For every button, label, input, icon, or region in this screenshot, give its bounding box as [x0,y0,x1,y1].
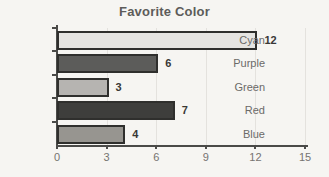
x-tick-label-0: 0 [54,151,60,163]
y-axis-tick [52,50,57,52]
category-label-purple: Purple [0,54,265,73]
x-axis-tick-0 [56,145,58,149]
category-label-cyan: Cyan [0,31,265,50]
category-label-green: Green [0,78,265,97]
x-tick-label-15: 15 [299,151,311,163]
category-label-blue: Blue [0,125,265,144]
value-label-cyan: 12 [264,31,276,50]
x-tick-label-3: 3 [104,151,110,163]
x-axis-tick-12 [254,145,256,149]
favorite-color-bar-chart: Favorite Color 126374 CyanPurpleGreenRed… [0,0,329,177]
category-label-red: Red [0,101,265,120]
y-axis-tick [52,27,57,29]
x-tick-label-12: 12 [249,151,261,163]
x-axis-tick-15 [304,145,306,149]
y-axis-tick [52,97,57,99]
x-tick-label-9: 9 [203,151,209,163]
x-axis-tick-6 [155,145,157,149]
x-tick-label-6: 6 [153,151,159,163]
x-axis-tick-3 [106,145,108,149]
x-axis-tick-9 [205,145,207,149]
chart-title: Favorite Color [0,4,329,19]
gridline-x-15 [305,28,306,145]
y-axis-tick [52,74,57,76]
y-axis-tick [52,121,57,123]
